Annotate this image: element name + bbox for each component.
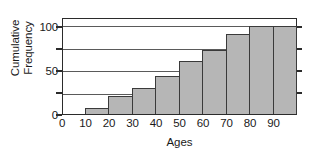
- bar-20-30: [108, 96, 133, 114]
- bar-50-60: [179, 61, 204, 114]
- bar-10-20: [85, 108, 110, 114]
- y-tick-label-100: 100: [18, 22, 58, 34]
- x-tick-label-10: 10: [73, 118, 99, 130]
- bar-30-40: [132, 88, 157, 114]
- bar-60-70: [202, 50, 227, 114]
- plot-area: [63, 19, 296, 114]
- x-tick-label-60: 60: [190, 118, 216, 130]
- x-tick-label-0: 0: [49, 118, 75, 130]
- cumulative-frequency-chart: Cumulative Frequency 0 50 100: [0, 0, 309, 163]
- x-tick-label-50: 50: [167, 118, 193, 130]
- x-axis-title: Ages: [62, 136, 297, 149]
- bar-70-80: [226, 34, 251, 114]
- x-tick-label-20: 20: [96, 118, 122, 130]
- x-tick-label-80: 80: [237, 118, 263, 130]
- y-tick-label-50: 50: [18, 66, 58, 78]
- bar-series: [63, 19, 296, 114]
- x-tick-label-70: 70: [214, 118, 240, 130]
- x-tick-label-40: 40: [143, 118, 169, 130]
- bar-80-90: [249, 26, 274, 114]
- bar-90-100: [273, 26, 298, 114]
- x-tick-label-30: 30: [120, 118, 146, 130]
- bar-40-50: [155, 76, 180, 114]
- x-tick-label-90: 90: [261, 118, 287, 130]
- plot-frame: [62, 18, 297, 115]
- y-axis-title: Cumulative Frequency: [4, 0, 40, 103]
